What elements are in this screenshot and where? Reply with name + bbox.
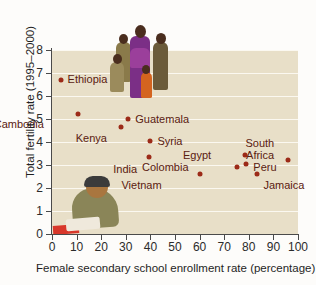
- y-tick: [46, 73, 51, 74]
- y-tick: [46, 234, 51, 235]
- y-tick-label: 5: [36, 113, 43, 125]
- y-tick-label: 4: [36, 136, 43, 148]
- data-point-label: Jamaica: [263, 180, 304, 192]
- data-point-label: Kenya: [76, 133, 107, 145]
- family-photo: [108, 8, 172, 100]
- y-tick-label: 1: [36, 205, 43, 217]
- y-tick-label: 8: [36, 44, 43, 56]
- gridline: [52, 96, 298, 97]
- data-point-label: Syria: [157, 136, 182, 148]
- y-tick: [46, 119, 51, 120]
- data-point: [75, 112, 80, 117]
- data-point: [255, 172, 260, 177]
- reader-scarf: [84, 176, 110, 187]
- y-tick-label: 7: [36, 67, 43, 79]
- data-point: [244, 161, 249, 166]
- data-point: [126, 117, 131, 122]
- data-point: [197, 172, 202, 177]
- y-tick: [46, 142, 51, 143]
- y-tick-label: 2: [36, 182, 43, 194]
- data-point: [147, 154, 152, 159]
- y-tick-label: 6: [36, 90, 43, 102]
- y-tick-label: 0: [36, 228, 43, 240]
- data-point: [234, 165, 239, 170]
- y-tick: [46, 96, 51, 97]
- data-point: [58, 77, 63, 82]
- y-tick: [46, 188, 51, 189]
- data-point: [148, 138, 153, 143]
- data-point: [118, 125, 123, 130]
- data-point-label: Guatemala: [135, 114, 189, 126]
- data-point-label: Ethiopia: [68, 74, 108, 86]
- open-book: [66, 217, 101, 232]
- y-tick: [46, 50, 51, 51]
- data-point-label: Egypt: [183, 150, 211, 162]
- x-axis-title: Female secondary school enrollment rate …: [36, 262, 304, 274]
- y-axis-line: [51, 48, 52, 235]
- y-tick-label: 3: [36, 159, 43, 171]
- y-axis-title: Total fertility rate (1995–2000): [24, 12, 36, 192]
- y-tick: [46, 211, 51, 212]
- data-point-label: SouthAfrica: [245, 138, 274, 161]
- chart-figure: EthiopiaCambodiaKenyaGuatemalaSyriaIndia…: [0, 0, 316, 285]
- y-tick: [46, 165, 51, 166]
- data-point-label: Colombia: [142, 162, 188, 174]
- gridline: [52, 50, 298, 51]
- woman-reading-photo: [52, 172, 128, 234]
- x-tick-label: 100: [283, 241, 313, 253]
- data-point: [286, 158, 291, 163]
